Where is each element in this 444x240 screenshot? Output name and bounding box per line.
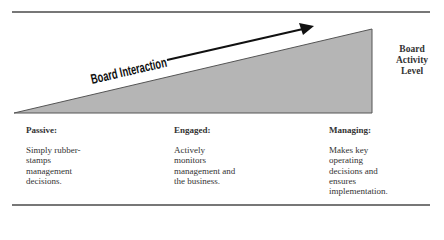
column-passive: Passive: Simply rubber- stamps managemen… [26,125,116,186]
column-title: Engaged: [174,125,264,135]
column-description: Makes key operating decisions and ensure… [329,145,419,196]
bottom-rule [12,204,430,206]
column-managing: Managing: Makes key operating decisions … [329,125,419,196]
column-title: Passive: [26,125,116,135]
column-title: Managing: [329,125,419,135]
column-description: Simply rubber- stamps management decisio… [26,145,116,186]
axis-label-board-activity-level: Board Activity Level [392,44,432,77]
activity-wedge [14,29,372,113]
column-engaged: Engaged: Actively monitors management an… [174,125,264,186]
column-description: Actively monitors management and the bus… [174,145,264,186]
